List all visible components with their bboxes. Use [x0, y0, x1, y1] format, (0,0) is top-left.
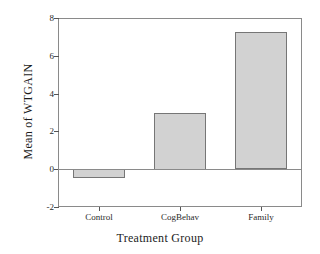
y-axis-tick-neg2: [54, 207, 59, 208]
zero-reference-line: [58, 169, 302, 170]
bar-cogbehav[interactable]: [154, 113, 206, 170]
x-tick-label-control: Control: [59, 213, 139, 222]
x-axis-tick-control: [99, 207, 100, 211]
x-tick-label-cogbehav: CogBehav: [140, 213, 220, 222]
x-axis-tick-family: [261, 207, 262, 211]
y-axis-tick-6: [54, 56, 59, 57]
bar-family[interactable]: [235, 32, 287, 169]
chart-page: 8 6 4 2 0 -2 Control CogBehav Family Tre…: [0, 0, 320, 254]
x-tick-label-family: Family: [221, 213, 301, 222]
y-tick-label-8: 8: [32, 14, 54, 23]
x-axis-title: Treatment Group: [0, 231, 320, 246]
bar-control[interactable]: [73, 169, 125, 178]
y-axis-tick-8: [54, 18, 59, 19]
y-axis-line: [58, 18, 59, 207]
y-axis-tick-4: [54, 94, 59, 95]
y-axis-title: Mean of WTGAIN: [21, 32, 36, 192]
y-tick-label-neg2: -2: [32, 203, 54, 212]
y-axis-tick-2: [54, 131, 59, 132]
x-axis-tick-cogbehav: [180, 207, 181, 211]
